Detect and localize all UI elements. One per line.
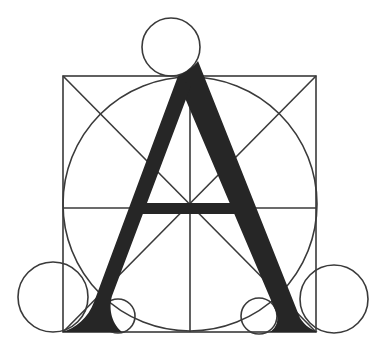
left-outer-circle	[18, 262, 88, 332]
construction-lines	[18, 18, 368, 334]
right-inner-circle	[241, 298, 277, 334]
letter-construction-diagram: Geometric construction of the capital le…	[0, 0, 387, 354]
top-circle	[142, 18, 200, 76]
right-thick-stroke	[178, 61, 318, 332]
diagram-canvas	[0, 0, 387, 354]
right-outer-circle	[300, 265, 368, 333]
crossbar	[136, 203, 252, 214]
